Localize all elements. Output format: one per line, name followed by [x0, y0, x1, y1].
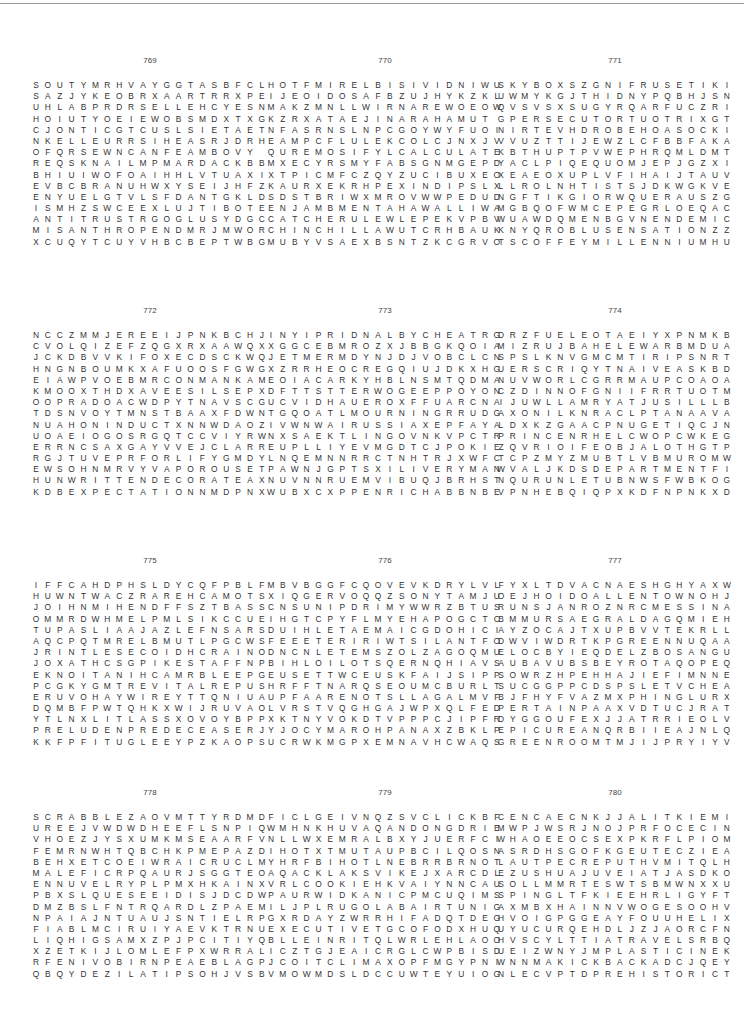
puzzle-number: 770 — [265, 56, 505, 65]
grid-letter: T — [89, 386, 101, 397]
grid-letter: A — [507, 158, 519, 169]
grid-letter: J — [685, 725, 697, 736]
grid-letter: I — [638, 737, 650, 748]
grid-letter: H — [443, 658, 455, 669]
grid-letter: I — [543, 442, 555, 453]
grid-letter: H — [66, 935, 78, 946]
grid-letter: O — [149, 812, 161, 823]
grid-letter: K — [113, 352, 125, 363]
grid-letter: X — [507, 902, 519, 913]
grid-letter: P — [431, 386, 443, 397]
grid-letter: N — [554, 352, 566, 363]
grid-letter: O — [313, 879, 325, 890]
grid-letter: B — [455, 602, 467, 613]
grid-letter: D — [408, 823, 420, 834]
grid-letter: N — [455, 879, 467, 890]
grid-letter: P — [30, 681, 42, 692]
grid-letter: V — [650, 625, 662, 636]
grid-letter: G — [590, 80, 602, 91]
grid-letter: Q — [396, 364, 408, 375]
grid-letter: X — [455, 453, 467, 464]
grid-letter: C — [673, 846, 685, 857]
grid-letter: C — [313, 614, 325, 625]
grid-row: VVUZTTIJEWZLCFBBFAKA — [495, 136, 733, 147]
grid-letter: T — [566, 969, 578, 980]
grid-letter: C — [479, 352, 491, 363]
grid-letter: E — [66, 834, 78, 845]
grid-letter: A — [185, 408, 197, 419]
grid-letter: G — [543, 681, 555, 692]
grid-letter: P — [66, 636, 78, 647]
grid-letter: L — [89, 714, 101, 725]
grid-letter: R — [125, 102, 137, 113]
grid-letter: S — [185, 114, 197, 125]
grid-letter: Y — [220, 714, 232, 725]
grid-letter: B — [566, 341, 578, 352]
grid-letter: L — [336, 957, 348, 968]
grid-letter: T — [89, 857, 101, 868]
grid-letter: L — [685, 397, 697, 408]
grid-letter: C — [431, 714, 443, 725]
grid-letter: W — [479, 203, 491, 214]
grid-letter: B — [137, 846, 149, 857]
grid-letter: X — [709, 158, 721, 169]
grid-letter: L — [232, 913, 244, 924]
letter-grid: CENCAECNKJJALITKIEMIMWPJWSRJNOJPRFOCECIN… — [495, 812, 733, 980]
grid-letter: T — [443, 591, 455, 602]
grid-letter: S — [289, 431, 301, 442]
grid-letter: E — [265, 136, 277, 147]
grid-row: UCRWKMGPXEMNAVHCWAQS — [265, 737, 503, 748]
grid-letter: I — [626, 868, 638, 879]
grid-letter: D — [244, 453, 256, 464]
grid-letter: Q — [54, 969, 66, 980]
grid-letter: E — [661, 364, 673, 375]
grid-letter: E — [396, 658, 408, 669]
grid-letter: Y — [467, 386, 479, 397]
grid-row: NPAIAJNTUAUJSNTIELRP — [30, 913, 268, 924]
grid-letter: H — [709, 237, 721, 248]
grid-letter: A — [173, 857, 185, 868]
word-search-puzzle: 776MBVBGGFCQOVEVKDRYLVLXIQGERVOQQZSONYTA… — [265, 568, 505, 753]
grid-letter: H — [360, 181, 372, 192]
grid-letter: E — [479, 913, 491, 924]
grid-letter: G — [685, 181, 697, 192]
grid-letter: T — [313, 670, 325, 681]
grid-letter: X — [313, 181, 325, 192]
grid-letter: L — [531, 158, 543, 169]
grid-letter: N — [277, 647, 289, 658]
grid-letter: U — [519, 475, 531, 486]
grid-letter: S — [149, 408, 161, 419]
grid-letter: T — [78, 658, 90, 669]
grid-letter: W — [208, 946, 220, 957]
grid-letter: I — [54, 647, 66, 658]
grid-letter: R — [455, 868, 467, 879]
grid-letter: L — [709, 857, 721, 868]
grid-letter: I — [89, 946, 101, 957]
grid-letter: Q — [626, 192, 638, 203]
grid-letter: A — [277, 102, 289, 113]
grid-letter: Q — [125, 703, 137, 714]
grid-letter: A — [495, 658, 507, 669]
grid-letter: J — [566, 91, 578, 102]
grid-letter: Q — [443, 913, 455, 924]
grid-row: PRELUDENPREDECEASERJ — [30, 725, 268, 736]
grid-letter: I — [602, 890, 614, 901]
grid-letter: A — [113, 935, 125, 946]
grid-letter: H — [650, 580, 662, 591]
grid-letter: O — [360, 341, 372, 352]
grid-letter: H — [324, 823, 336, 834]
grid-letter: I — [697, 834, 709, 845]
grid-letter: L — [324, 868, 336, 879]
grid-letter: N — [697, 946, 709, 957]
grid-letter: I — [543, 408, 555, 419]
grid-letter: U — [697, 692, 709, 703]
grid-letter: D — [431, 580, 443, 591]
grid-row: HUNWRITTENDECORATEAX — [30, 475, 268, 486]
grid-letter: C — [42, 330, 54, 341]
grid-letter: I — [277, 812, 289, 823]
grid-letter: V — [590, 147, 602, 158]
grid-letter: R — [324, 591, 336, 602]
grid-letter: C — [431, 681, 443, 692]
grid-letter: C — [431, 136, 443, 147]
grid-letter: W — [54, 591, 66, 602]
